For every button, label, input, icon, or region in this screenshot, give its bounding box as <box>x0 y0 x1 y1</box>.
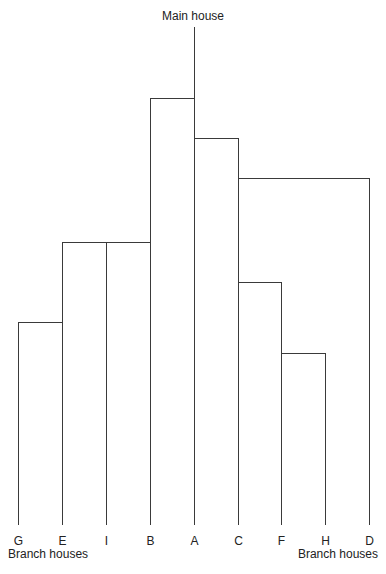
leaf-label-F: F <box>278 534 285 548</box>
leaf-label-I: I <box>105 534 108 548</box>
leaf-label-E: E <box>58 534 66 548</box>
leaf-label-B: B <box>146 534 154 548</box>
leaf-label-D: D <box>365 534 374 548</box>
leaf-label-C: C <box>234 534 243 548</box>
leaf-label-G: G <box>14 534 23 548</box>
branch-houses-left-label: Branch houses <box>8 547 88 561</box>
lineage-diagram: Main house GEIBACFHD Branch houses Branc… <box>0 0 386 574</box>
lineage-lines <box>19 27 370 525</box>
leaf-label-H: H <box>321 534 330 548</box>
branch-houses-right-label: Branch houses <box>298 547 378 561</box>
leaf-labels: GEIBACFHD <box>14 534 374 548</box>
main-house-label: Main house <box>162 9 224 23</box>
leaf-label-A: A <box>190 534 198 548</box>
